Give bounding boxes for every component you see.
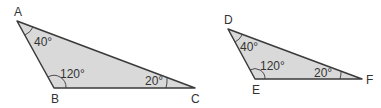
- vertex-label-b: B: [51, 92, 59, 106]
- angle-label-d: 40°: [240, 40, 258, 54]
- angle-label-b: 120°: [60, 67, 85, 81]
- triangle-def: D E F 40° 120° 20°: [224, 13, 373, 97]
- angle-label-a: 40°: [34, 35, 52, 49]
- vertex-label-e: E: [252, 83, 260, 97]
- vertex-label-d: D: [224, 13, 233, 27]
- angle-label-e: 120°: [260, 59, 285, 73]
- angle-label-f: 20°: [314, 66, 332, 80]
- vertex-label-f: F: [366, 73, 373, 87]
- triangle-def-shape: [228, 29, 362, 79]
- triangle-abc-shape: [17, 21, 195, 88]
- triangle-abc: A B C 40° 120° 20°: [14, 5, 200, 106]
- triangles-diagram: A B C 40° 120° 20° D E F 40° 120° 20°: [0, 0, 381, 108]
- angle-label-c: 20°: [145, 74, 163, 88]
- vertex-label-a: A: [14, 5, 22, 19]
- vertex-label-c: C: [191, 92, 200, 106]
